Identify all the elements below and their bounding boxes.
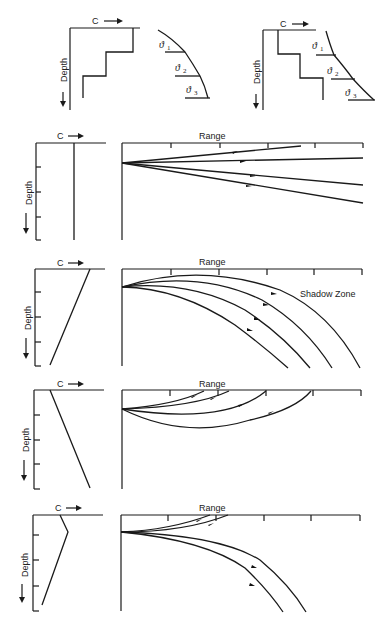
shadow-zone-label: Shadow Zone [300,289,356,299]
svg-text:1: 1 [320,45,324,53]
svg-text:Depth: Depth [252,60,262,84]
svg-text:3: 3 [194,89,198,97]
svg-text:Range: Range [199,379,226,389]
svg-text:C: C [280,19,287,29]
svg-text:Range: Range [199,503,226,513]
panel-decreasing-profile: C Depth Range Shadow Zone [23,257,362,368]
inset-step-profile-increasing: C Depth ϑ1 ϑ2 ϑ3 [252,19,375,110]
ray-diagram: C Depth ϑ1 ϑ2 ϑ3 C Depth ϑ1 ϑ2 ϑ3 C [0,0,389,628]
svg-text:C: C [55,503,62,513]
svg-text:Depth: Depth [20,553,30,577]
range-axis-label: Range [199,131,226,141]
svg-text:C: C [57,131,64,141]
svg-text:ϑ: ϑ [345,87,351,98]
inset-step-profile-decreasing: C Depth ϑ1 ϑ2 ϑ3 [59,16,210,110]
svg-text:Depth: Depth [21,428,31,452]
depth-axis-label: Depth [59,58,69,82]
svg-text:2: 2 [183,67,187,75]
svg-text:C: C [57,379,64,389]
svg-text:ϑ: ϑ [312,40,318,51]
svg-text:2: 2 [335,70,339,78]
svg-text:C: C [57,258,64,268]
svg-text:1: 1 [167,44,171,52]
svg-text:ϑ: ϑ [159,39,165,50]
c-axis-label: C [92,16,99,26]
svg-text:Depth: Depth [24,181,34,205]
svg-text:ϑ: ϑ [327,65,333,76]
svg-text:Range: Range [199,257,226,267]
svg-text:Depth: Depth [23,306,33,330]
panel-minimum-profile: C Depth Range [20,503,360,612]
svg-text:ϑ: ϑ [175,62,181,73]
panel-constant-profile: C Depth Range [24,131,363,240]
panel-increasing-profile: C Depth Range [21,379,361,489]
svg-text:ϑ: ϑ [186,84,192,95]
svg-text:3: 3 [353,92,357,100]
